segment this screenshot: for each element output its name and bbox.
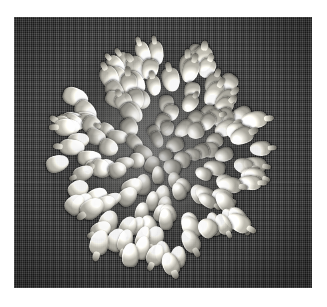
photograph — [14, 17, 312, 288]
kernel — [152, 166, 165, 185]
kernel-cluster — [14, 17, 312, 288]
kernel — [121, 242, 140, 268]
kernel — [249, 140, 271, 156]
page-root — [0, 0, 327, 307]
